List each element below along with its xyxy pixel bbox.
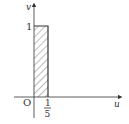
x-tick-denominator: 5: [45, 109, 51, 119]
y-tick-label: 1: [26, 21, 32, 32]
origin-label: O: [23, 97, 31, 108]
x-tick-numerator: 1: [45, 98, 51, 108]
diagram-canvas: v 1 O 1 5 u: [0, 0, 129, 124]
hatched-region: [34, 26, 48, 97]
vertical-axis-label: v: [26, 2, 31, 12]
horizontal-axis-label: u: [114, 99, 120, 109]
